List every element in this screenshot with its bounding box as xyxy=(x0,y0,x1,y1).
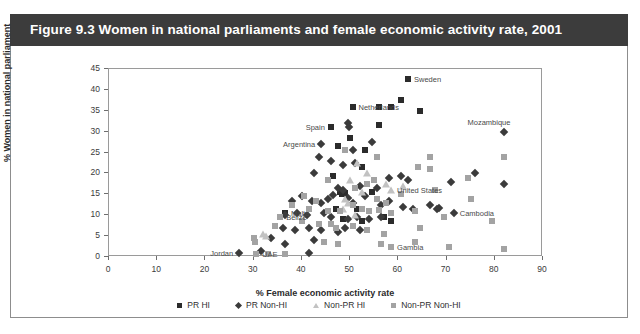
data-point xyxy=(441,214,447,220)
x-tick-label: 10 xyxy=(144,264,168,274)
data-point xyxy=(374,154,380,160)
y-tick-label: 45 xyxy=(78,63,100,73)
legend-item[interactable]: Non-PR HI xyxy=(313,300,365,310)
data-point xyxy=(313,198,319,204)
data-point xyxy=(388,244,394,250)
data-point xyxy=(272,223,278,229)
data-point xyxy=(381,231,387,237)
data-point xyxy=(305,249,313,257)
data-point xyxy=(427,154,433,160)
data-point xyxy=(347,135,353,141)
data-point xyxy=(325,208,331,214)
data-point xyxy=(417,225,423,231)
data-point xyxy=(341,224,349,232)
data-point xyxy=(447,178,455,186)
data-point xyxy=(500,127,508,135)
chart-legend: PR HIPR Non-HINon-PR HINon-PR Non-HI xyxy=(10,300,628,310)
data-point xyxy=(328,124,334,130)
x-tick-label: 70 xyxy=(434,264,458,274)
data-point xyxy=(450,209,458,217)
data-point xyxy=(277,214,283,220)
legend-item[interactable]: PR HI xyxy=(177,300,210,310)
y-tick-label: 5 xyxy=(78,230,100,240)
data-point xyxy=(321,239,327,245)
point-label: Sweden xyxy=(414,75,441,84)
data-point xyxy=(278,224,286,232)
data-point xyxy=(376,207,382,213)
x-tick-label: 60 xyxy=(385,264,409,274)
x-tick-label: 30 xyxy=(241,264,265,274)
data-point xyxy=(471,169,479,177)
data-point xyxy=(337,208,343,214)
point-label: Mozambique xyxy=(467,117,510,126)
x-tick-mark xyxy=(397,256,398,260)
data-point xyxy=(352,185,358,191)
point-label: Jordan xyxy=(210,248,233,257)
data-point xyxy=(368,138,376,146)
point-label: United States xyxy=(397,186,442,195)
y-tick-label: 10 xyxy=(78,209,100,219)
data-point xyxy=(350,202,356,208)
figure-title-banner: Figure 9.3 Women in national parliaments… xyxy=(10,14,628,46)
data-point xyxy=(253,251,259,257)
x-tick-mark xyxy=(446,256,447,260)
point-label: Spain xyxy=(306,123,325,132)
data-point xyxy=(415,164,421,170)
data-point xyxy=(388,210,394,216)
data-point xyxy=(289,202,295,208)
data-point xyxy=(316,221,322,227)
y-axis-title: % Women in national parliament xyxy=(2,24,12,162)
data-point xyxy=(387,187,395,194)
data-point xyxy=(301,193,307,199)
data-point xyxy=(290,226,298,234)
y-tick-label: 15 xyxy=(78,188,100,198)
data-point xyxy=(353,160,361,167)
legend-item[interactable]: PR Non-HI xyxy=(236,300,287,310)
data-point xyxy=(358,189,366,196)
triangle-marker-icon xyxy=(313,303,319,308)
x-tick-mark xyxy=(494,256,495,260)
point-label: Cambodia xyxy=(460,209,494,218)
x-tick-mark xyxy=(204,256,205,260)
point-label: Gambia xyxy=(397,242,423,251)
point-label: Netherlands xyxy=(359,102,399,111)
x-axis-title: % Female economic activity rate xyxy=(108,288,542,298)
data-point xyxy=(359,206,365,212)
data-point xyxy=(376,122,382,128)
scatter-plot-area: SwedenNetherlandsMozambiqueSpainArgentin… xyxy=(108,68,542,256)
y-tick-label: 0 xyxy=(78,251,100,261)
data-point xyxy=(427,166,433,172)
data-point xyxy=(446,244,452,250)
data-point xyxy=(310,169,318,177)
data-point xyxy=(348,146,356,154)
x-tick-label: 80 xyxy=(482,264,506,274)
data-point xyxy=(465,175,471,181)
data-point xyxy=(468,196,474,202)
data-point xyxy=(333,225,339,231)
data-point xyxy=(362,147,368,153)
data-point xyxy=(350,223,356,229)
data-point xyxy=(412,208,418,214)
data-point xyxy=(399,203,407,211)
legend-item[interactable]: Non-PR Non-HI xyxy=(391,300,461,310)
data-point xyxy=(501,154,507,160)
y-tick-label: 20 xyxy=(78,167,100,177)
data-point xyxy=(350,104,356,110)
data-point xyxy=(356,226,364,234)
point-label: Belize xyxy=(286,213,306,222)
x-tick-mark xyxy=(349,256,350,260)
data-point xyxy=(262,233,270,240)
x-tick-label: 20 xyxy=(192,264,216,274)
data-point xyxy=(281,240,289,248)
data-point xyxy=(235,249,243,257)
x-tick-mark xyxy=(542,256,543,260)
x-tick-label: 50 xyxy=(337,264,361,274)
data-point xyxy=(364,227,370,233)
data-point xyxy=(405,76,411,82)
data-point xyxy=(371,177,377,183)
x-tick-label: 0 xyxy=(96,264,120,274)
data-point xyxy=(342,147,348,153)
data-point xyxy=(378,241,384,247)
data-point xyxy=(388,218,394,224)
y-tick-label: 35 xyxy=(78,105,100,115)
